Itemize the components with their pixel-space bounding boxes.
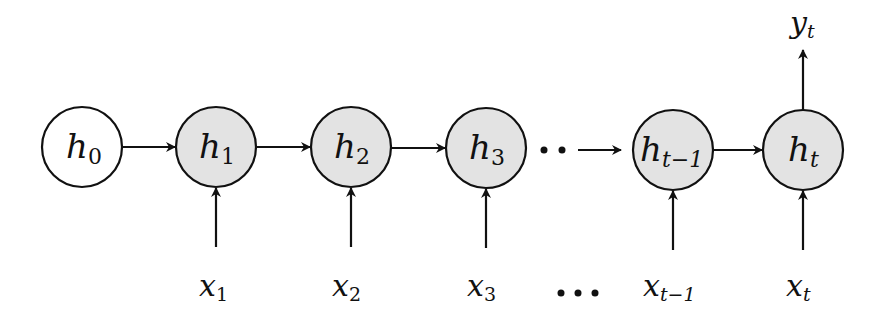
- node-h2: h2: [311, 107, 391, 187]
- node-ht: ht: [763, 110, 843, 190]
- output-label-yt: yt: [788, 5, 815, 42]
- input-label-x3: x3: [467, 268, 496, 305]
- input-label-xt-1: xt−1: [643, 268, 696, 305]
- ellipsis-dot: [541, 147, 548, 154]
- input-label-x1: x1: [199, 268, 228, 305]
- node-h1: h1: [176, 107, 256, 187]
- node-h3: h3: [446, 108, 526, 188]
- input-label-xt: xt: [786, 268, 811, 305]
- node-h0: h0: [42, 107, 122, 187]
- ellipsis-dot: [559, 147, 566, 154]
- input-label-x2: x2: [332, 268, 361, 305]
- rnn-diagram: h0 h1 h2 h3 ht−1 ht yt x1 x2 x3 xt−1 xt: [0, 0, 876, 323]
- node-ht-1: ht−1: [633, 110, 713, 190]
- ellipsis-bottom: [558, 290, 599, 297]
